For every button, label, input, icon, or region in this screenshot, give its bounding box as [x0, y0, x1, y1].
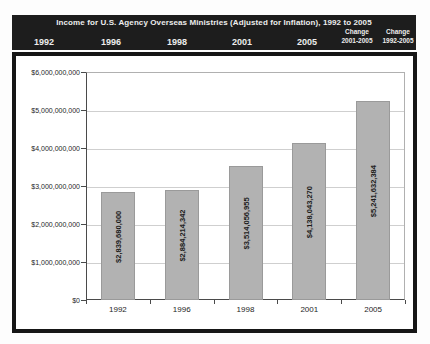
- x-axis-tick: [405, 300, 406, 304]
- y-axis-label: $4,000,000,000: [8, 145, 80, 152]
- bar-1996: $2,884,214,342: [165, 190, 199, 300]
- bar-value-label: $3,514,056,955: [230, 167, 262, 281]
- y-axis-tick: [81, 186, 86, 187]
- y-axis-tick: [81, 224, 86, 225]
- x-axis-tick: [214, 300, 215, 304]
- bar-1992: $2,839,680,000: [101, 192, 135, 300]
- x-axis-label: 2005: [364, 305, 382, 314]
- y-axis-tick: [81, 110, 86, 111]
- y-axis-tick: [81, 262, 86, 263]
- x-axis-label: 1996: [173, 305, 191, 314]
- bar-2001: $4,138,043,270: [292, 143, 326, 300]
- bar-value-label: $5,241,632,384: [357, 102, 389, 281]
- y-axis-tick: [81, 148, 86, 149]
- x-axis-tick: [86, 300, 87, 304]
- y-axis-label: $1,000,000,000: [8, 259, 80, 266]
- x-axis-tick: [277, 300, 278, 304]
- y-axis-label: $5,000,000,000: [8, 107, 80, 114]
- y-axis-label: $2,000,000,000: [8, 221, 80, 228]
- page: Income for U.S. Agency Overseas Ministri…: [0, 0, 430, 344]
- x-axis-label: 1992: [109, 305, 127, 314]
- x-axis-label: 2001: [300, 305, 318, 314]
- x-axis-tick: [341, 300, 342, 304]
- bar-value-label: $2,839,680,000: [102, 193, 134, 281]
- chart-layer: $0$1,000,000,000$2,000,000,000$3,000,000…: [0, 0, 430, 344]
- x-axis-label: 1998: [237, 305, 255, 314]
- y-axis-label: $0: [8, 297, 80, 304]
- y-axis-label: $3,000,000,000: [8, 183, 80, 190]
- bar-value-label: $4,138,043,270: [293, 144, 325, 281]
- y-axis-tick: [81, 72, 86, 73]
- y-axis-label: $6,000,000,000: [8, 69, 80, 76]
- x-axis-tick: [150, 300, 151, 304]
- bar-2005: $5,241,632,384: [356, 101, 390, 300]
- bar-1998: $3,514,056,955: [229, 166, 263, 300]
- bar-value-label: $2,884,214,342: [166, 191, 198, 281]
